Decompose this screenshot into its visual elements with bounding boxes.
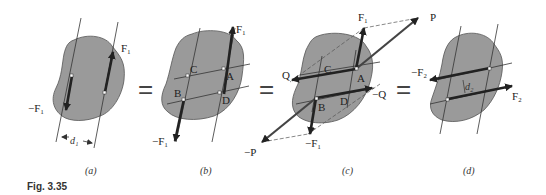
point-A-marker: [355, 67, 358, 70]
label-B: B: [318, 101, 325, 113]
label-D: D: [222, 94, 230, 106]
equals-sign: =: [259, 74, 274, 104]
label-neg-F1: −F₁: [305, 137, 321, 149]
label-A: A: [226, 70, 234, 82]
panel-caption-d: (d): [463, 165, 475, 177]
label-P: P: [430, 11, 436, 23]
panel-a: F₁ −F₁ d₁ (a): [28, 18, 131, 177]
label-neg-F1: −F₁: [28, 102, 44, 114]
rigid-body-a: [53, 36, 124, 120]
couple-equivalence-diagram: F₁ −F₁ d₁ (a) Fig. 3.35 = C A B D F₁ −F₁…: [0, 0, 546, 195]
application-point: [488, 67, 491, 70]
application-point: [70, 74, 73, 77]
label-F1: F₁: [236, 23, 246, 35]
force-P-arrow: [356, 18, 418, 69]
label-F2: F₂: [512, 90, 522, 102]
panel-caption-a: (a): [85, 165, 97, 177]
figure-caption: Fig. 3.35: [27, 181, 67, 192]
point-D-marker: [218, 91, 221, 94]
label-D: D: [340, 95, 348, 107]
label-d1: d₁: [70, 135, 78, 146]
equals-sign: =: [396, 74, 411, 104]
point-C-marker: [186, 74, 189, 77]
label-C: C: [324, 63, 331, 75]
label-neg-P: −P: [244, 146, 256, 158]
panel-caption-b: (b): [200, 165, 212, 177]
point-B-marker: [315, 97, 318, 100]
label-F1: F₁: [358, 11, 368, 23]
equals-sign: =: [138, 74, 153, 104]
label-neg-Q: −Q: [372, 88, 386, 100]
point-B-marker: [182, 98, 185, 101]
application-point: [103, 91, 106, 94]
label-d2: d₂: [465, 81, 474, 92]
label-C: C: [190, 63, 197, 75]
panel-caption-c: (c): [342, 165, 354, 177]
distance-d1-right: [83, 141, 92, 143]
label-A: A: [357, 72, 365, 84]
panel-b: C A B D F₁ −F₁ (b): [152, 23, 250, 177]
label-F1: F₁: [121, 42, 131, 54]
label-B: B: [174, 87, 181, 99]
application-point: [446, 98, 449, 101]
label-neg-F2: −F₂: [411, 66, 427, 78]
panel-d: d₂ −F₂ F₂ (d): [411, 24, 522, 177]
label-neg-F1: −F₁: [152, 135, 168, 147]
dashed-line: [364, 18, 418, 28]
label-Q: Q: [282, 69, 290, 81]
point-A-marker: [222, 67, 225, 70]
